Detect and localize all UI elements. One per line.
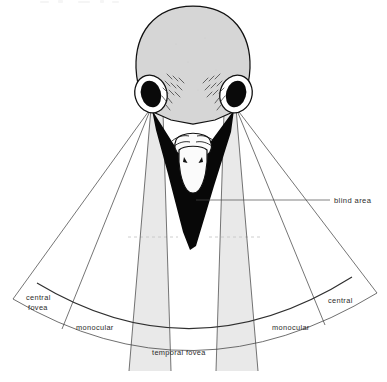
scan-artifacts: [40, 0, 119, 3]
blind-area-label: blind area: [334, 196, 372, 205]
visual-field-figure: blind area central fovea monocular tempo…: [0, 0, 387, 382]
central-right-label: central: [328, 296, 353, 305]
visual-field-diagram: blind area central fovea monocular tempo…: [0, 0, 387, 382]
central-fovea-left-label-line2: fovea: [28, 303, 48, 312]
monocular-left-label: monocular: [76, 323, 114, 332]
temporal-fovea-label: temporal fovea: [152, 348, 206, 357]
monocular-right-label: monocular: [272, 323, 310, 332]
central-fovea-left-label-line1: central: [26, 293, 51, 302]
